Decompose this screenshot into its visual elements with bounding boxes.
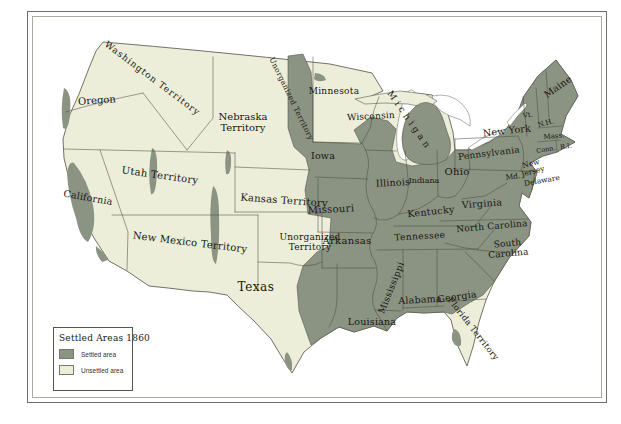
settled-area-swatch	[59, 349, 74, 359]
map-canvas: Washington TerritoryOregonNebraska Terri…	[0, 0, 621, 424]
legend-label-settled: Settled area	[81, 351, 116, 358]
legend-label-unsettled: Unsettled area	[81, 367, 123, 374]
legend-row-unsettled: Unsettled area	[59, 365, 128, 375]
map-legend: Settled Areas 1860 Settled area Unsettle…	[53, 327, 133, 391]
legend-title: Settled Areas 1860	[59, 333, 128, 343]
unsettled-area-swatch	[59, 365, 74, 375]
legend-row-settled: Settled area	[59, 349, 128, 359]
